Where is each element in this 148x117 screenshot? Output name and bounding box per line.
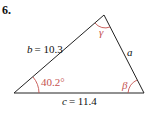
side-c-var: c <box>62 95 67 107</box>
angle-alpha-label: 40.2° <box>41 76 65 88</box>
angle-gamma-label: γ <box>99 26 104 38</box>
angle-alpha-arc <box>33 77 39 93</box>
angle-beta-arc <box>128 80 137 93</box>
side-b-value: = 10.3 <box>35 43 64 55</box>
angle-beta-label: β <box>121 79 128 91</box>
triangle-diagram: 6. 40.2° β γ b= 10.3 a c= 11.4 <box>0 0 148 117</box>
side-b-label: b= 10.3 <box>27 43 63 55</box>
side-c-label: c= 11.4 <box>62 95 97 107</box>
side-a-label: a <box>127 46 133 58</box>
side-b-var: b <box>27 43 33 55</box>
problem-number: 6. <box>2 3 11 17</box>
side-c-value: = 11.4 <box>69 95 97 107</box>
